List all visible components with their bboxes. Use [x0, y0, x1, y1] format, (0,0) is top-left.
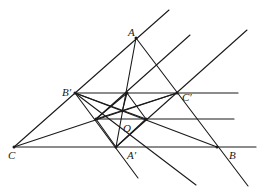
- geometry-diagram: A B′ C′ C A′ B O: [0, 0, 259, 196]
- line-mid-left-aprime: [96, 119, 116, 147]
- point-mid-right: [145, 118, 148, 121]
- line-a-b-extended: [136, 38, 248, 186]
- point-b: [216, 146, 219, 149]
- label-a: A: [127, 26, 135, 38]
- line-parallel-through-cprime: [116, 30, 247, 147]
- label-o: O: [123, 122, 131, 134]
- label-cprime: C′: [182, 91, 192, 103]
- label-aprime: A′: [126, 149, 137, 161]
- point-center: [126, 92, 129, 95]
- point-mid-left: [95, 118, 98, 121]
- diagram-svg: A B′ C′ C A′ B O: [0, 0, 259, 196]
- label-c: C: [8, 149, 16, 161]
- label-bprime: B′: [62, 86, 72, 98]
- line-c-a-extended: [14, 10, 169, 147]
- label-b: B: [229, 149, 236, 161]
- point-cprime: [176, 92, 179, 95]
- point-aprime: [115, 146, 118, 149]
- point-a: [135, 37, 138, 40]
- point-bprime: [74, 92, 77, 95]
